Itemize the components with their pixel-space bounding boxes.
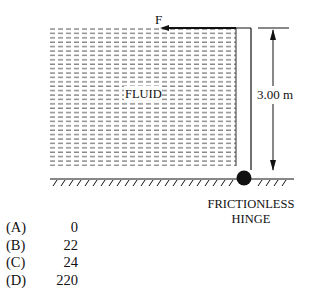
choice-c[interactable]: (C) 24 [6,254,78,272]
arrow-down-icon [270,160,276,171]
choice-a[interactable]: (A) 0 [6,219,78,237]
choice-value: 220 [46,272,78,290]
choice-b[interactable]: (B) 22 [6,237,78,255]
hinge-label-line1: FRICTIONLESS [208,197,295,211]
choice-value: 24 [46,254,78,272]
dimension-label: 3.00 m [257,87,293,102]
hinge-icon [237,171,252,186]
answer-choices: (A) 0 (B) 22 (C) 24 (D) 220 [6,219,78,289]
choice-value: 22 [46,237,78,255]
choice-d[interactable]: (D) 220 [6,272,78,290]
arrow-up-icon [270,29,276,40]
force-label: F [155,12,162,27]
choice-letter: (D) [6,272,46,290]
choice-letter: (B) [6,237,46,255]
choice-letter: (C) [6,254,46,272]
fluid-label: FLUID [125,87,162,101]
gate [236,28,251,170]
hinge-label-line2: HINGE [232,212,271,226]
choice-value: 0 [46,219,78,237]
choice-letter: (A) [6,219,46,237]
ground [50,179,294,186]
